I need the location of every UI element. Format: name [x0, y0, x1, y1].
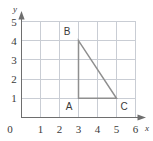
graph-svg: B A C 5 4 3 2 1 0 1 2 3 4 5 6 y x	[0, 0, 153, 141]
y-axis-label: y	[12, 4, 17, 14]
x-tick-label-4: 4	[95, 123, 101, 135]
y-tick-label-5: 5	[11, 16, 17, 28]
y-tick-label-4: 4	[11, 35, 17, 47]
vertex-label-b: B	[64, 26, 71, 37]
x-axis-label: x	[144, 123, 149, 133]
x-tick-label-5: 5	[114, 123, 120, 135]
x-axis-arrow-icon	[138, 114, 147, 120]
coordinate-grid-figure: B A C 5 4 3 2 1 0 1 2 3 4 5 6 y x	[0, 0, 153, 141]
x-tick-label-6: 6	[133, 123, 139, 135]
vertex-label-a: A	[66, 101, 73, 112]
x-tick-label-2: 2	[57, 123, 63, 135]
origin-tick-label: 0	[7, 123, 13, 135]
y-tick-label-2: 2	[11, 73, 17, 85]
x-tick-label-3: 3	[76, 123, 82, 135]
y-tick-label-1: 1	[11, 92, 17, 104]
vertex-label-c: C	[120, 101, 127, 112]
y-tick-label-3: 3	[11, 54, 17, 66]
x-tick-label-1: 1	[38, 123, 44, 135]
y-axis-arrow-icon	[18, 11, 24, 20]
